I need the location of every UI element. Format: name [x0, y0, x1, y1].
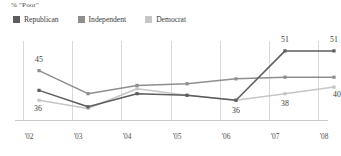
- legend-label: Independent: [89, 16, 127, 24]
- x-axis-tick-label: '04: [123, 132, 132, 141]
- data-point-value-label: 36: [232, 107, 240, 115]
- x-axis-tick-label: '07: [271, 132, 280, 141]
- chart-legend: RepublicanIndependentDemocrat: [13, 16, 186, 24]
- legend-item-republican[interactable]: Republican: [13, 16, 59, 24]
- data-point-value-label: 40: [333, 91, 341, 99]
- legend-item-independent[interactable]: Independent: [78, 16, 127, 24]
- legend-swatch-icon: [13, 16, 20, 23]
- data-point-marker[interactable]: [37, 99, 40, 102]
- chart-unit-title: % "Poor": [11, 1, 39, 9]
- x-axis-tick-label: '02: [25, 132, 34, 141]
- data-point-marker[interactable]: [234, 99, 237, 102]
- data-point-marker[interactable]: [332, 85, 335, 88]
- legend-item-democrat[interactable]: Democrat: [145, 16, 186, 24]
- legend-swatch-icon: [78, 16, 85, 23]
- x-axis-tick-label: '05: [173, 132, 182, 141]
- x-axis-tick-label: '08: [320, 132, 329, 141]
- data-point-marker[interactable]: [135, 92, 138, 95]
- series-lines: [15, 41, 328, 120]
- x-axis-tick-label: '06: [222, 132, 231, 141]
- data-point-marker[interactable]: [283, 92, 286, 95]
- plot-area: [15, 41, 328, 120]
- series-line-republican: [39, 51, 334, 107]
- data-point-marker[interactable]: [86, 105, 89, 108]
- legend-swatch-icon: [145, 16, 152, 23]
- data-point-marker[interactable]: [135, 87, 138, 90]
- data-point-value-label: 36: [34, 105, 42, 113]
- data-point-marker[interactable]: [234, 77, 237, 80]
- x-axis-tick-label: '03: [74, 132, 83, 141]
- data-point-value-label: 51: [330, 36, 338, 44]
- data-point-value-label: 45: [35, 56, 43, 64]
- x-axis-line: [15, 120, 328, 121]
- data-point-marker[interactable]: [185, 94, 188, 97]
- legend-label: Democrat: [156, 16, 186, 24]
- data-point-marker[interactable]: [135, 84, 138, 87]
- data-point-marker[interactable]: [37, 89, 40, 92]
- data-point-value-label: 51: [281, 36, 289, 44]
- data-point-marker[interactable]: [86, 92, 89, 95]
- series-line-independent: [39, 71, 334, 94]
- data-point-value-label: 38: [281, 100, 289, 108]
- data-point-marker[interactable]: [283, 49, 286, 52]
- data-point-marker[interactable]: [332, 49, 335, 52]
- data-point-marker[interactable]: [283, 76, 286, 79]
- data-point-marker[interactable]: [185, 82, 188, 85]
- data-point-marker[interactable]: [332, 76, 335, 79]
- data-point-marker[interactable]: [37, 69, 40, 72]
- legend-label: Republican: [24, 16, 59, 24]
